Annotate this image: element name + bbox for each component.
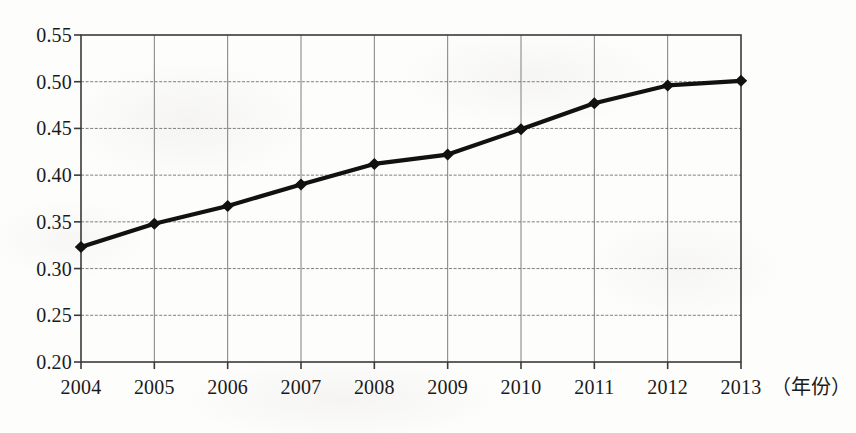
x-axis-tick-label: 2005 xyxy=(114,376,194,398)
x-axis-tick-label: 2006 xyxy=(188,376,268,398)
x-axis-tick-label: 2011 xyxy=(554,376,634,398)
x-axis-tick-label: 2012 xyxy=(628,376,708,398)
x-axis-tick-label: 2009 xyxy=(408,376,488,398)
x-axis-tick-label: 2010 xyxy=(481,376,561,398)
x-axis-tick-label: 2007 xyxy=(261,376,341,398)
chart-figure: 0.200.250.300.350.400.450.500.55 2004200… xyxy=(0,0,856,433)
x-axis-labels: 2004200520062007200820092010201120122013 xyxy=(0,0,856,433)
x-axis-tick-label: 2013 xyxy=(701,376,781,398)
x-axis-tick-label: 2004 xyxy=(41,376,121,398)
x-axis-title: （年份） xyxy=(771,376,851,398)
x-axis-tick-label: 2008 xyxy=(334,376,414,398)
